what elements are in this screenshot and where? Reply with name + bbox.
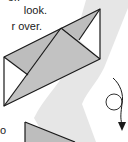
origami-fold-diagram — [0, 0, 128, 142]
paper-model — [4, 9, 100, 106]
turn-over-icon — [106, 78, 126, 131]
next-step-diagram-partial — [25, 122, 75, 142]
